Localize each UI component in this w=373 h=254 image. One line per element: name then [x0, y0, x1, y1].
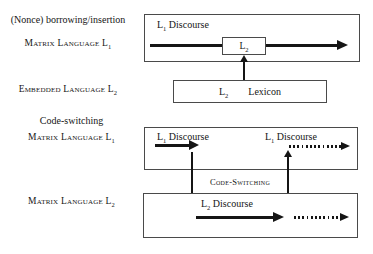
subscript: 2: [114, 89, 117, 96]
cs-l2-discourse-rest: Discourse: [210, 198, 253, 209]
l1-discourse-label-top: L1 Discourse: [157, 19, 209, 30]
cs-l1-left-discourse-rest: Discourse: [166, 131, 209, 142]
codeswitching-heading: Code-switching: [10, 115, 133, 126]
embedded-language-l2-label-base: Embedded Language L: [19, 84, 114, 94]
l1-discourse-label-top-rest: Discourse: [166, 19, 209, 30]
lexicon-to-l2-arrow-head: [240, 55, 248, 62]
diagram-canvas: (Nonce) borrowing/insertion Matrix Langu…: [0, 0, 373, 254]
subscript: 1: [108, 43, 111, 50]
subscript: 2: [225, 92, 228, 99]
subscript: 2: [111, 201, 114, 208]
matrix-language-l1-label-top: Matrix Language L1: [5, 38, 131, 48]
cs-l1-solid-arrow-line: [155, 144, 191, 147]
cs-l2-dotted-arrow-head: [340, 213, 349, 221]
matrix-language-l1-label-top-base: Matrix Language L: [25, 38, 108, 48]
cs-l1-dotted-arrow-line: [289, 145, 341, 148]
insertion-flow-arrow-head: [337, 40, 348, 50]
matrix-language-l2-label-cs: Matrix Language L2: [10, 196, 133, 206]
l2-lexicon-word-label: Lexicon: [248, 86, 281, 97]
cs-l2-dotted-arrow-line: [294, 216, 340, 219]
subscript: 1: [111, 137, 114, 144]
cs-l2-solid-arrow-head: [273, 212, 284, 222]
cs-l1-left-discourse-label: L1 Discourse: [157, 131, 209, 142]
cs-up-arrow-head: [284, 150, 292, 157]
cs-l1-right-discourse-label: L1 Discourse: [265, 131, 317, 142]
codeswitching-label: Code-Switching: [190, 177, 290, 187]
matrix-language-l1-label-cs-base: Matrix Language L: [28, 132, 111, 142]
lexicon-to-l2-arrow-line: [243, 60, 245, 80]
cs-l1-solid-arrow-head: [189, 140, 199, 150]
cs-l2-discourse-label: L2 Discourse: [201, 198, 253, 209]
matrix-language-l2-label-cs-base: Matrix Language L: [28, 196, 111, 206]
cs-l1-box: L1 Discourse L1 Discourse: [144, 127, 358, 170]
embedded-language-l2-label: Embedded Language L2: [5, 84, 131, 94]
l2-lexicon-box: L2 Lexicon: [173, 80, 327, 103]
matrix-language-l1-label-cs: Matrix Language L1: [10, 132, 133, 142]
l2-insert-label: L2: [239, 41, 248, 51]
l2-insert-box: L2: [222, 37, 266, 55]
cs-l1-dotted-arrow-head: [341, 142, 350, 150]
borrowing-heading: (Nonce) borrowing/insertion: [5, 14, 131, 25]
l2-lexicon-lang-label: L2: [219, 86, 228, 97]
cs-l1-right-discourse-rest: Discourse: [274, 131, 317, 142]
cs-l2-solid-arrow-line: [196, 216, 274, 219]
subscript: 2: [245, 46, 248, 53]
